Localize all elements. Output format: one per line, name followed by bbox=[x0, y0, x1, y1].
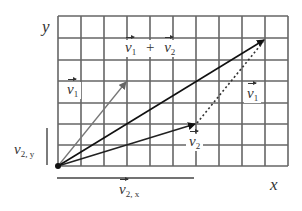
origin-dot bbox=[55, 163, 61, 169]
subscript: 2, x bbox=[126, 189, 140, 199]
vector-symbol: v bbox=[67, 82, 74, 97]
subscript: 2 bbox=[171, 47, 176, 57]
subscript: 1 bbox=[132, 47, 137, 57]
vector-symbol: v bbox=[247, 86, 254, 101]
subscript: 1 bbox=[74, 89, 79, 99]
y-axis-label: y bbox=[42, 18, 50, 35]
subscript: 2 bbox=[196, 141, 201, 151]
label-v1-shifted: v1 bbox=[244, 86, 261, 103]
component-symbol: v bbox=[14, 141, 21, 157]
label-v2: v2 bbox=[186, 134, 203, 151]
subscript: 1 bbox=[254, 93, 259, 103]
label-v1: v1 bbox=[64, 82, 81, 99]
plus-sign: + bbox=[146, 39, 154, 55]
label-v2y: v2, y bbox=[14, 142, 34, 159]
vector-symbol: v bbox=[164, 40, 171, 55]
subscript: 2, y bbox=[21, 149, 35, 159]
vector-symbol: v bbox=[119, 182, 126, 197]
vector-symbol: v bbox=[125, 40, 132, 55]
x-axis-label: x bbox=[270, 176, 278, 193]
label-v1-plus-v2: v1 + v2 bbox=[122, 40, 178, 57]
label-v2x: v2, x bbox=[119, 182, 139, 199]
vector-symbol: v bbox=[189, 134, 196, 149]
